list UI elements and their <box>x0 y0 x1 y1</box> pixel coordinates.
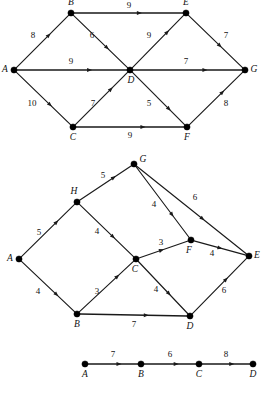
graph-edge-D-F: 5 <box>132 72 185 125</box>
edge-line <box>132 72 185 125</box>
arrow-head-icon <box>202 68 207 72</box>
edge-weight-label: 8 <box>224 349 229 359</box>
graph-edge-A-H: 5 <box>21 204 75 257</box>
edge-line <box>80 314 187 316</box>
edge-weight-label: 10 <box>28 98 38 108</box>
edge-weight-label: 4 <box>36 286 41 296</box>
edge-weight-label: 7 <box>184 56 189 66</box>
arrow-head-icon <box>140 125 145 129</box>
arrow-head-icon <box>144 313 149 317</box>
node-label: C <box>70 132 77 142</box>
graph-node-B: B <box>68 0 74 16</box>
graph-node-A: A <box>6 253 22 263</box>
node-dot <box>196 361 202 367</box>
graph-edge-C-D: 7 <box>75 72 128 125</box>
node-layer: ABCDEFGH <box>6 154 260 331</box>
edge-weight-label: 3 <box>159 237 164 247</box>
node-label: F <box>185 245 192 255</box>
graph-edge-C-D: 8 <box>202 349 250 366</box>
node-label: A <box>1 64 8 74</box>
edge-weight-label: 4 <box>152 199 157 209</box>
edge-line <box>79 204 134 257</box>
arrow-head-icon <box>87 68 92 72</box>
node-label: C <box>196 369 203 379</box>
graph-edge-D-G: 7 <box>133 56 242 72</box>
edge-weight-label: 5 <box>101 170 106 180</box>
arrow-head-icon <box>137 11 142 15</box>
edge-line <box>75 72 128 125</box>
node-label: A <box>81 369 88 379</box>
node-dot <box>138 361 144 367</box>
node-dot <box>246 253 252 259</box>
edge-weight-label: 9 <box>147 30 152 40</box>
graph-edge-E-G: 7 <box>188 15 243 68</box>
graph-edge-C-F: 3 <box>139 237 188 258</box>
node-dot <box>127 67 133 73</box>
upper-graph: 8910967997578ABCDEFG <box>1 0 257 142</box>
node-label: H <box>70 186 79 196</box>
graph-node-F: F <box>183 124 190 142</box>
graph-edge-F-E: 4 <box>194 241 246 258</box>
node-dot <box>250 361 256 367</box>
node-label: F <box>183 132 190 142</box>
edge-weight-label: 4 <box>210 248 215 258</box>
arrow-head-icon <box>229 362 234 366</box>
graph-edge-A-B: 8 <box>16 15 69 68</box>
graph-node-C: C <box>132 256 139 274</box>
node-label: B <box>68 0 74 7</box>
node-dot <box>74 199 80 205</box>
node-layer: ABCDEFG <box>1 0 257 142</box>
graph-node-C: C <box>196 361 203 379</box>
node-dot <box>16 256 22 262</box>
graph-edge-B-C: 6 <box>144 349 196 366</box>
edge-weight-label: 9 <box>127 0 132 10</box>
graph-edge-C-F: 9 <box>76 125 184 140</box>
graph-node-B: B <box>74 311 80 329</box>
node-label: B <box>74 319 80 329</box>
edge-line <box>73 15 128 68</box>
edge-weight-label: 5 <box>147 98 152 108</box>
node-dot <box>70 124 76 130</box>
node-label: C <box>132 264 139 274</box>
node-dot <box>131 161 137 167</box>
edge-weight-label: 9 <box>69 56 74 66</box>
node-dot <box>82 361 88 367</box>
graph-node-E: E <box>182 0 189 16</box>
graph-figure-container: 8910967997578ABCDEFG545437344646ABCDEFGH… <box>0 0 261 410</box>
edge-weight-label: 4 <box>154 284 159 294</box>
edge-line <box>192 258 247 314</box>
node-label: G <box>140 154 147 164</box>
arrow-head-icon <box>174 362 179 366</box>
edge-weight-label: 9 <box>128 130 133 140</box>
graph-edge-H-G: 5 <box>80 166 132 201</box>
edge-layer: 768 <box>88 349 250 366</box>
edge-weight-label: 7 <box>91 98 96 108</box>
edge-weight-label: 8 <box>31 30 36 40</box>
node-label: E <box>253 250 260 260</box>
edge-line <box>16 72 71 125</box>
node-dot <box>183 10 189 16</box>
edge-line <box>16 15 69 68</box>
graph-node-A: A <box>81 361 88 379</box>
graph-edge-D-E: 6 <box>192 258 247 314</box>
node-dot <box>11 67 17 73</box>
edge-weight-label: 6 <box>222 285 227 295</box>
node-label: B <box>138 369 144 379</box>
graph-node-E: E <box>246 250 260 260</box>
edge-line <box>189 72 243 125</box>
graph-node-G: G <box>131 154 147 167</box>
edge-line <box>132 15 184 68</box>
arrow-head-icon <box>217 245 222 249</box>
node-label: A <box>6 253 13 263</box>
node-dot <box>188 237 194 243</box>
edge-weight-label: 4 <box>95 226 100 236</box>
graph-node-A: A <box>1 64 17 74</box>
graph-edge-C-D: 4 <box>138 261 188 313</box>
arrow-head-icon <box>116 362 121 366</box>
edge-weight-label: 6 <box>168 349 173 359</box>
edge-weight-label: 7 <box>224 30 229 40</box>
node-dot <box>242 67 248 73</box>
edge-line <box>138 261 188 313</box>
graph-edge-B-D: 6 <box>73 15 128 68</box>
node-label: D <box>127 75 135 85</box>
